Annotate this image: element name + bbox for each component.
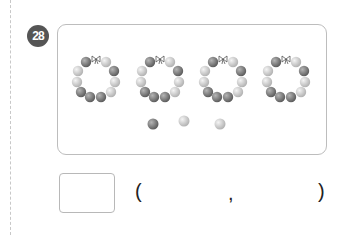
loose-bead-dark	[148, 119, 159, 130]
comma-separator: ,	[228, 182, 234, 205]
loose-bead-light-1	[179, 116, 190, 127]
bracelet-3	[199, 56, 247, 102]
bracelet-1	[72, 56, 120, 102]
bracelet-4	[262, 56, 310, 102]
answer-input-box[interactable]	[59, 173, 115, 213]
bracelet-2	[136, 56, 184, 102]
choice-left-blank[interactable]	[150, 180, 220, 204]
loose-bead-light-2	[215, 119, 226, 130]
close-paren: )	[318, 180, 325, 203]
choice-right-blank[interactable]	[240, 180, 310, 204]
open-paren: (	[135, 180, 142, 203]
